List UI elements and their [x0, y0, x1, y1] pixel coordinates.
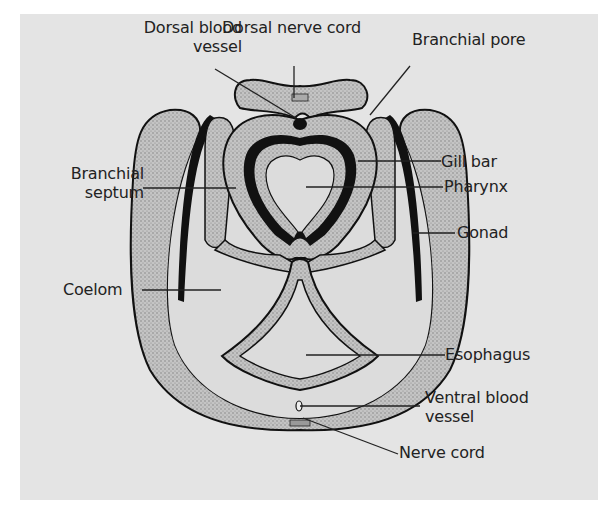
label-dorsal-blood-vessel: Dorsal blood vessel	[62, 18, 242, 56]
label-ventral-blood-vessel-line1: Ventral blood	[425, 388, 529, 407]
label-branchial-septum: Branchial septum	[34, 164, 144, 202]
label-pharynx: Pharynx	[444, 177, 508, 196]
label-ventral-blood-vessel-line2: vessel	[425, 407, 529, 426]
cross-section-figure: Dorsal blood vessel Dorsal nerve cord Br…	[20, 14, 598, 500]
label-branchial-septum-line1: Branchial	[34, 164, 144, 183]
label-dorsal-blood-vessel-line1: Dorsal blood	[62, 18, 242, 37]
label-gonad: Gonad	[457, 223, 508, 242]
label-gill-bar: Gill bar	[441, 152, 497, 171]
label-branchial-septum-line2: septum	[34, 183, 144, 202]
nerve-cord-ventral	[290, 420, 310, 426]
label-branchial-pore: Branchial pore	[412, 30, 525, 49]
label-dorsal-nerve-cord: Dorsal nerve cord	[222, 18, 361, 37]
label-nerve-cord: Nerve cord	[399, 443, 485, 462]
label-coelom: Coelom	[63, 280, 122, 299]
label-dorsal-blood-vessel-line2: vessel	[62, 37, 242, 56]
cross-section-drawing	[20, 14, 598, 500]
label-ventral-blood-vessel: Ventral blood vessel	[425, 388, 529, 426]
label-esophagus: Esophagus	[445, 345, 530, 364]
